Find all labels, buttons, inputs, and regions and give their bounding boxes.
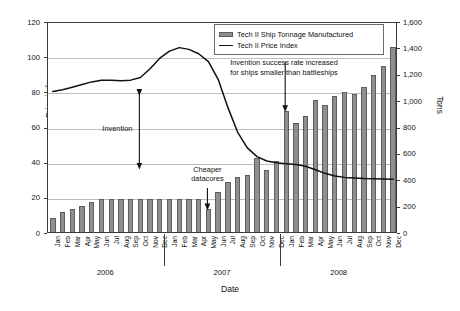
y-tick-right: 600 [403, 149, 437, 158]
chart-legend: Tech II Ship Tonnage Manufactured Tech I… [214, 24, 384, 55]
y-tick-left: 100 [6, 53, 40, 62]
legend-label-tonnage: Tech II Ship Tonnage Manufactured [237, 30, 353, 39]
legend-bar-swatch-icon [219, 32, 233, 37]
y-tick-right: 1,200 [403, 70, 437, 79]
annotation-cheaper-datacores-label: Cheaper datacores [181, 165, 233, 184]
x-tick-month: Jul [346, 236, 353, 244]
x-tick-month: Apr [84, 236, 91, 246]
x-tick-month: Jan [171, 236, 178, 247]
x-tick-month: Feb [64, 236, 71, 247]
x-tick-month: Mar [74, 236, 81, 247]
x-tick-month: Jun [336, 236, 343, 247]
x-tick-month: Jul [229, 236, 236, 244]
y-tick-left: 20 [6, 193, 40, 202]
x-tick-month: Aug [356, 236, 363, 248]
x-axis-title: Date [0, 284, 460, 294]
annotation-invention-success-label: Invention success rate increased for shi… [230, 58, 338, 77]
annotation-cheaper-line1: Cheaper [181, 165, 233, 175]
y-tick-right: 400 [403, 176, 437, 185]
x-tick-month: Aug [123, 236, 130, 248]
annotation-success-line1: Invention success rate increased [230, 58, 338, 68]
x-tick-month: Sep [249, 236, 256, 248]
annotation-invention-label: Invention [102, 124, 132, 133]
x-tick-month: Jun [220, 236, 227, 247]
annotation-cheaper-line2: datacores [181, 174, 233, 184]
legend-label-price-index: Tech II Price Index [237, 41, 298, 50]
x-tick-month: Jan [288, 236, 295, 247]
y-tick-mark-left [44, 233, 47, 234]
x-tick-month: Jan [54, 236, 61, 247]
y-tick-left: 80 [6, 88, 40, 97]
x-tick-month: Dec [395, 236, 402, 248]
y-tick-left: 120 [6, 18, 40, 27]
y-tick-left: 40 [6, 158, 40, 167]
x-tick-month: Nov [385, 236, 392, 248]
y-tick-right: 800 [403, 123, 437, 132]
x-tick-month: Sep [132, 236, 139, 248]
legend-line-swatch-icon [219, 45, 233, 46]
x-tick-month: Jul [113, 236, 120, 244]
x-year-label: 2008 [280, 268, 397, 277]
x-tick-month: Oct [142, 236, 149, 246]
year-separator [280, 234, 281, 266]
x-tick-month: Aug [239, 236, 246, 248]
x-tick-month: Feb [298, 236, 305, 247]
x-tick-month: Feb [181, 236, 188, 247]
x-tick-month: Oct [259, 236, 266, 246]
legend-item-tonnage: Tech II Ship Tonnage Manufactured [219, 29, 379, 39]
year-separator [164, 234, 165, 266]
x-tick-month: Mar [307, 236, 314, 247]
x-tick-month: May [93, 236, 100, 248]
x-tick-month: Nov [268, 236, 275, 248]
x-tick-month: Oct [375, 236, 382, 246]
x-tick-month: Apr [200, 236, 207, 246]
chart-figure: Price index Tons Date 020406080100120 02… [0, 0, 460, 311]
x-tick-month: Apr [317, 236, 324, 246]
annotation-success-line2: for ships smaller than battleships [230, 68, 338, 78]
x-year-label: 2006 [47, 268, 164, 277]
x-tick-month: May [327, 236, 334, 248]
y-tick-right: 0 [403, 229, 437, 238]
y-tick-left: 0 [6, 229, 40, 238]
x-tick-month: Nov [152, 236, 159, 248]
x-tick-month: May [210, 236, 217, 248]
x-tick-month: Sep [366, 236, 373, 248]
x-tick-month: Jun [103, 236, 110, 247]
x-tick-month: Dec [161, 236, 168, 248]
x-year-label: 2007 [164, 268, 281, 277]
y-tick-right: 200 [403, 202, 437, 211]
y-tick-right: 1,400 [403, 44, 437, 53]
y-tick-right: 1,000 [403, 97, 437, 106]
y-tick-right: 1,600 [403, 18, 437, 27]
x-tick-month: Dec [278, 236, 285, 248]
y-tick-left: 60 [6, 123, 40, 132]
x-tick-month: Mar [191, 236, 198, 247]
legend-item-price-index: Tech II Price Index [219, 40, 379, 50]
